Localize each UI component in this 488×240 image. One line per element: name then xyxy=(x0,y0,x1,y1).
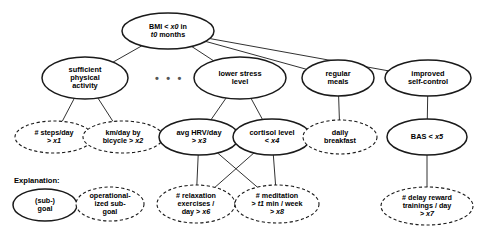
node-meals-solid[interactable] xyxy=(302,60,374,96)
node-medit-dashed[interactable] xyxy=(235,185,319,223)
goal-hierarchy-diagram: BMI < x0 int0 monthssufficientphysicalac… xyxy=(0,0,488,240)
node-steps-dashed[interactable] xyxy=(15,121,93,153)
node-legend-goal-solid[interactable] xyxy=(13,189,77,221)
node-bicycle-dashed[interactable] xyxy=(83,121,163,153)
edge-hrv-to-relax xyxy=(197,155,198,185)
edge-stress-to-cortisol xyxy=(251,98,262,119)
edge-root-to-stress xyxy=(192,46,214,60)
node-root-solid[interactable] xyxy=(122,13,214,49)
node-bas-solid[interactable] xyxy=(387,119,467,155)
edge-meals-to-breakfast xyxy=(339,96,340,120)
edge-root-to-phys xyxy=(113,46,142,62)
node-stress-solid[interactable] xyxy=(194,57,286,99)
node-breakfast-dashed[interactable] xyxy=(303,120,377,154)
edge-phys-to-steps xyxy=(62,98,74,121)
edge-phys-to-bicycle xyxy=(98,98,113,121)
node-phys-solid[interactable] xyxy=(42,57,128,99)
edge-cortisol-to-relax xyxy=(215,153,254,187)
node-cortisol-solid[interactable] xyxy=(233,119,311,155)
diagram-canvas xyxy=(0,0,488,240)
node-relax-dashed[interactable] xyxy=(157,185,235,223)
edge-stress-to-hrv xyxy=(211,98,226,120)
node-selfctrl-solid[interactable] xyxy=(385,60,471,96)
node-delay-dashed[interactable] xyxy=(381,187,473,225)
edge-hrv-to-medit xyxy=(218,153,258,187)
edge-cortisol-to-medit xyxy=(273,155,275,185)
node-hrv-solid[interactable] xyxy=(159,119,239,155)
legend-title: Explanation: xyxy=(14,176,60,185)
node-legend-op-dashed[interactable] xyxy=(76,187,144,221)
ellipsis-indicator: • • • xyxy=(155,72,184,84)
